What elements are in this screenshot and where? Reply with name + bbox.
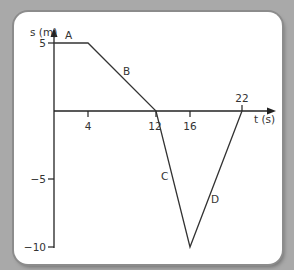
x-axis-label: t (s) [254,113,275,125]
segment-label-d: D [211,193,219,205]
segment-label-c: C [161,170,168,182]
y-tick-minus5: −5 [31,173,46,185]
segment-label-b: B [123,65,130,77]
y-tick-minus10: −10 [24,241,46,253]
x-tick-16: 16 [183,120,197,132]
x-tick-4: 4 [85,120,92,132]
x-tick-12: 12 [148,120,161,132]
displacement-time-graph: s (m) t (s) 5 −5 −10 4 12 16 22 A B C D [0,0,294,270]
displacement-line [54,43,242,247]
segment-label-a: A [65,29,73,41]
x-tick-22: 22 [235,92,248,104]
y-tick-5: 5 [39,37,46,49]
